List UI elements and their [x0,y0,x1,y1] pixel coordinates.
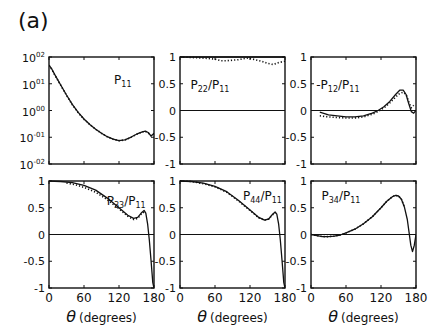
y-tick-label: 1 [300,175,307,188]
y-tick-label: 1 [38,175,45,188]
panel-title: P11 [114,73,131,89]
x-tick-label: 60 [76,291,91,305]
y-tick-label: 1000 [22,105,45,119]
plot-frame [49,57,154,164]
panel-p33: 060120180-1-0.500.51P33/P11θ(degrees) [24,175,166,326]
series-solid-p11 [49,65,154,141]
series-dotted-p12 [320,92,414,118]
y-tick-label: 1001 [22,78,45,92]
panel-title: P33/P11 [107,194,146,210]
y-tick-label: 0 [300,105,307,118]
y-tick-label: 1 [300,51,307,64]
series-solid-p34 [311,195,416,251]
panel-p22: -1-0.500.51P22/P11 [155,51,285,171]
x-axis-label: θ(degrees) [328,307,398,326]
panel-title: P44/P11 [243,189,282,205]
x-tick-label: 120 [239,291,262,305]
y-tick-label: 0 [169,229,176,242]
y-tick-label: 0 [300,229,307,242]
x-tick-label: 60 [338,291,353,305]
y-tick-label: 0.5 [28,202,46,215]
y-tick-label: 1 [169,175,176,188]
y-tick-label: -0.5 [286,255,307,268]
y-tick-label: -0.5 [24,255,45,268]
y-tick-label: -1 [165,282,176,295]
x-axis-label: θ(degrees) [66,307,136,326]
panel-p34: 060120180-1-0.500.51P34/P11θ(degrees) [286,175,428,326]
x-tick-label: 180 [143,291,166,305]
series-dotted-p22 [180,57,285,65]
y-tick-label: 0 [169,105,176,118]
x-tick-label: 0 [45,291,53,305]
series-solid-p12 [320,90,416,117]
x-axis-label: θ(degrees) [197,307,267,326]
x-tick-label: 180 [274,291,297,305]
y-tick-label: 1 [169,51,176,64]
y-tick-label: 0.5 [290,78,308,91]
y-tick-label: -1 [165,158,176,171]
panel-title: P22/P11 [191,78,230,94]
y-tick-label: -0.5 [155,255,176,268]
x-tick-label: 60 [207,291,222,305]
figure: 10-0210-01100010011002P11-1-0.500.51P22/… [0,0,442,334]
x-tick-label: 0 [307,291,315,305]
y-tick-label: 0.5 [159,78,177,91]
x-tick-label: 120 [108,291,131,305]
y-tick-label: -0.5 [155,131,176,144]
y-tick-label: 0.5 [290,202,308,215]
series-dotted-p11 [49,66,154,141]
panel-p11: 10-0210-01100010011002P11 [20,51,154,172]
x-tick-label: 120 [370,291,393,305]
y-tick-label: 10-01 [20,131,45,145]
y-tick-label: -1 [296,282,307,295]
x-tick-label: 180 [405,291,428,305]
y-tick-label: 10-02 [20,158,45,172]
y-tick-label: -1 [296,158,307,171]
panel-p12: -1-0.500.51-P12/P11 [286,51,416,171]
y-tick-label: -1 [34,282,45,295]
y-tick-label: 0.5 [159,202,177,215]
y-tick-label: 0 [38,229,45,242]
y-tick-label: 1002 [22,51,45,65]
y-tick-label: -0.5 [286,131,307,144]
panel-title: -P12/P11 [316,78,359,94]
panel-p44: 060120180-1-0.500.51P44/P11θ(degrees) [155,175,297,326]
x-tick-label: 0 [176,291,184,305]
panel-title: P34/P11 [322,189,361,205]
